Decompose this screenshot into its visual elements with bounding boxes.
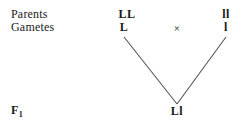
f1-label-subscript: 1 — [19, 110, 23, 119]
gametes-row-label: Gametes — [11, 21, 54, 33]
gamete-left-allele: L — [120, 21, 129, 33]
gamete-right-allele: l — [224, 21, 228, 33]
f1-label-base: F — [11, 103, 19, 117]
cross-multiplication-icon: × — [174, 22, 180, 34]
monohybrid-cross-diagram: Parents Gametes LL ll L × l F1 Ll — [0, 0, 248, 125]
left-gamete-to-f1-line — [124, 37, 177, 104]
parent-right-genotype: ll — [222, 8, 230, 20]
parents-row-label: Parents — [11, 8, 48, 20]
right-gamete-to-f1-line — [177, 37, 226, 104]
f1-offspring-genotype: Ll — [171, 105, 183, 117]
f1-row-label: F1 — [11, 104, 23, 119]
parent-left-genotype: LL — [118, 8, 135, 20]
